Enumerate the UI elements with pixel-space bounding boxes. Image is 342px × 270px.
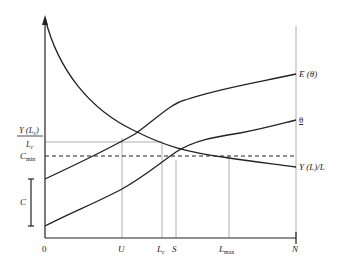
label-c-bracket: C — [20, 197, 27, 207]
label-U: U — [118, 244, 125, 254]
label-Lmax: Lmax — [218, 244, 234, 255]
label-N: N — [291, 244, 299, 254]
label-lc-denominator: Lc — [25, 139, 34, 150]
curve-E-theta — [45, 74, 296, 179]
label-avg-output: Y (L)/L — [299, 162, 325, 172]
label-origin: 0 — [42, 244, 47, 254]
label-c-min: Cmin — [20, 151, 35, 162]
label-Lc: Lc — [156, 244, 165, 255]
label-E-theta: E (θ) — [298, 69, 317, 79]
economics-diagram: E (θ) θ Y (L)/L Y (Lc) Lc Cmin C 0 U Lc … — [0, 0, 342, 270]
curve-avg-output — [45, 18, 296, 167]
curve-theta — [45, 120, 296, 226]
label-y-lc-numerator: Y (Lc) — [19, 125, 39, 136]
label-S: S — [172, 244, 177, 254]
label-theta: θ — [299, 115, 303, 125]
